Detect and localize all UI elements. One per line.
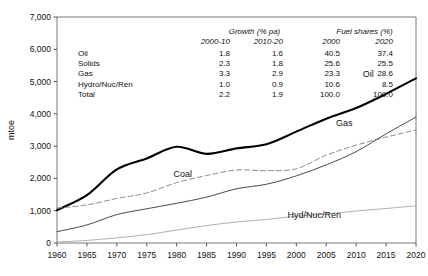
y-tick-label: 5,000 bbox=[30, 77, 52, 87]
series-label-coal: Coal bbox=[173, 169, 192, 179]
table-cell: 25.6 bbox=[324, 59, 340, 68]
table-row-label: Oil bbox=[78, 49, 88, 58]
table-cell: 1.6 bbox=[272, 49, 284, 58]
x-tick-label: 2020 bbox=[407, 250, 426, 260]
table-cell: 8.5 bbox=[382, 80, 394, 89]
table-cell: 2.9 bbox=[272, 69, 284, 78]
y-tick-label: 6,000 bbox=[30, 44, 52, 54]
table-column-header: 2000 bbox=[321, 37, 340, 46]
table-cell: 40.5 bbox=[324, 49, 340, 58]
table-row-label: Hydro/Nuc/Ren bbox=[78, 80, 133, 89]
x-tick-label: 2005 bbox=[317, 250, 336, 260]
table-row-label: Total bbox=[78, 90, 95, 99]
table-cell: 100.0 bbox=[373, 90, 394, 99]
table-column-header: 2020 bbox=[374, 37, 393, 46]
y-tick-label: 1,000 bbox=[30, 206, 52, 216]
table-column-header: 2000-10 bbox=[200, 37, 231, 46]
table-cell: 1.9 bbox=[272, 90, 284, 99]
x-tick-label: 1995 bbox=[257, 250, 276, 260]
x-tick-label: 1965 bbox=[77, 250, 96, 260]
table-row-label: Gas bbox=[78, 69, 93, 78]
table-cell: 0.9 bbox=[272, 80, 284, 89]
table-cell: 1.8 bbox=[272, 59, 284, 68]
series-line-oil bbox=[57, 78, 416, 210]
table-cell: 10.6 bbox=[324, 80, 340, 89]
x-tick-label: 1975 bbox=[137, 250, 156, 260]
x-tick-label: 1970 bbox=[107, 250, 126, 260]
table-cell: 1.8 bbox=[219, 49, 231, 58]
series-label-oil: Oil bbox=[363, 69, 374, 79]
x-tick-label: 2000 bbox=[287, 250, 306, 260]
chart-svg: 01,0002,0003,0004,0005,0006,0007,000mtoe… bbox=[0, 0, 428, 276]
y-tick-label: 4,000 bbox=[30, 109, 52, 119]
series-line-coal bbox=[57, 130, 416, 208]
plot-frame bbox=[57, 17, 416, 243]
y-axis-title: mtoe bbox=[6, 120, 16, 140]
x-tick-label: 1960 bbox=[48, 250, 67, 260]
table-group-header-shares: Fuel shares (%) bbox=[336, 27, 393, 36]
x-tick-label: 2015 bbox=[377, 250, 396, 260]
x-tick-label: 1980 bbox=[167, 250, 186, 260]
table-cell: 23.3 bbox=[324, 69, 340, 78]
table-cell: 28.6 bbox=[377, 69, 393, 78]
y-tick-label: 7,000 bbox=[30, 12, 52, 22]
table-cell: 1.0 bbox=[219, 80, 231, 89]
table-cell: 3.3 bbox=[219, 69, 231, 78]
series-label-gas: Gas bbox=[336, 118, 353, 128]
series-label-hyd-nuc-ren: Hyd/Nuc/Ren bbox=[288, 210, 342, 220]
table-cell: 100.0 bbox=[320, 90, 341, 99]
table-row-label: Solids bbox=[78, 59, 100, 68]
table-column-header: 2010-20 bbox=[253, 37, 284, 46]
energy-demand-chart: 01,0002,0003,0004,0005,0006,0007,000mtoe… bbox=[0, 0, 428, 276]
x-tick-label: 1985 bbox=[197, 250, 216, 260]
x-tick-label: 2010 bbox=[347, 250, 366, 260]
table-cell: 37.4 bbox=[377, 49, 393, 58]
table-cell: 2.3 bbox=[219, 59, 231, 68]
series-line-hyd-nuc-ren bbox=[57, 206, 416, 242]
y-tick-label: 0 bbox=[46, 238, 51, 248]
y-tick-label: 2,000 bbox=[30, 173, 52, 183]
table-cell: 2.2 bbox=[219, 90, 231, 99]
table-cell: 25.5 bbox=[377, 59, 393, 68]
x-tick-label: 1990 bbox=[227, 250, 246, 260]
y-tick-label: 3,000 bbox=[30, 141, 52, 151]
table-group-header-growth: Growth (% pa) bbox=[229, 27, 281, 36]
